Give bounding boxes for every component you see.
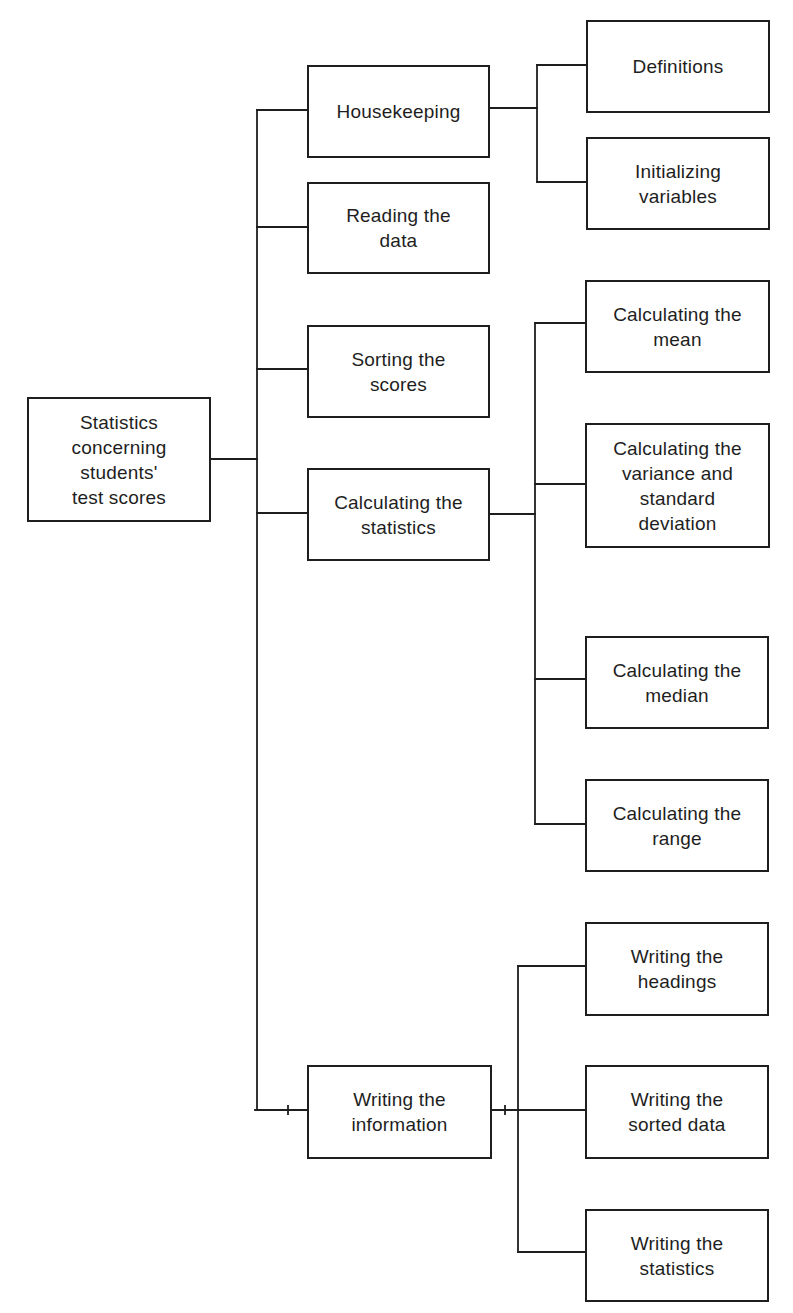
node-label: Writing the statistics — [631, 1231, 724, 1281]
node-label: Calculating the median — [613, 658, 742, 708]
node-label: Sorting the scores — [351, 347, 445, 397]
node-calculating-statistics[interactable]: Calculating the statistics — [307, 468, 490, 561]
node-label: Housekeeping — [337, 99, 461, 124]
node-label: Initializing variables — [635, 159, 721, 209]
node-label: Calculating the variance and standard de… — [613, 436, 742, 536]
node-label: Statistics concerning students' test sco… — [72, 410, 167, 510]
node-reading-data[interactable]: Reading the data — [307, 182, 490, 274]
node-label: Calculating the mean — [613, 302, 742, 352]
node-housekeeping[interactable]: Housekeeping — [307, 65, 490, 158]
node-label: Definitions — [633, 54, 724, 79]
node-writing-sorted-data[interactable]: Writing the sorted data — [585, 1065, 769, 1159]
node-calculating-median[interactable]: Calculating the median — [585, 636, 769, 729]
node-definitions[interactable]: Definitions — [586, 20, 770, 113]
node-label: Writing the sorted data — [628, 1087, 725, 1137]
node-root[interactable]: Statistics concerning students' test sco… — [27, 397, 211, 522]
node-label: Writing the information — [351, 1087, 447, 1137]
node-label: Writing the headings — [631, 944, 724, 994]
node-writing-statistics[interactable]: Writing the statistics — [585, 1209, 769, 1302]
node-writing-headings[interactable]: Writing the headings — [585, 922, 769, 1016]
node-sorting-scores[interactable]: Sorting the scores — [307, 325, 490, 418]
node-writing-information[interactable]: Writing the information — [307, 1065, 492, 1159]
node-calculating-range[interactable]: Calculating the range — [585, 779, 769, 872]
node-label: Reading the data — [346, 203, 451, 253]
structure-chart: Statistics concerning students' test sco… — [0, 0, 793, 1313]
node-initializing-variables[interactable]: Initializing variables — [586, 137, 770, 230]
node-label: Calculating the statistics — [334, 490, 463, 540]
node-label: Calculating the range — [613, 801, 742, 851]
node-calculating-mean[interactable]: Calculating the mean — [585, 280, 770, 373]
node-calculating-variance[interactable]: Calculating the variance and standard de… — [585, 423, 770, 548]
